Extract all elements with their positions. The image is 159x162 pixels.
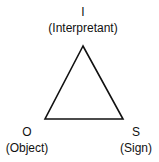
node-object-letter: O xyxy=(2,125,52,139)
node-sign-letter: S xyxy=(115,125,157,139)
triangle-shape xyxy=(45,46,123,119)
node-object: O (Object) xyxy=(2,125,52,155)
node-interpretant-label: (Interpretant) xyxy=(40,21,126,35)
node-interpretant: I (Interpretant) xyxy=(40,5,126,35)
node-object-label: (Object) xyxy=(2,141,52,155)
node-sign-label: (Sign) xyxy=(115,141,157,155)
node-interpretant-letter: I xyxy=(40,5,126,19)
node-sign: S (Sign) xyxy=(115,125,157,155)
